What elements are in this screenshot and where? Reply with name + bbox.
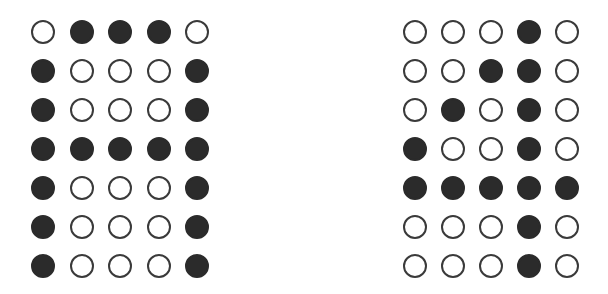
filled-dot — [70, 137, 94, 161]
empty-dot — [403, 59, 427, 83]
empty-dot — [403, 254, 427, 278]
empty-dot — [441, 254, 465, 278]
empty-dot — [403, 20, 427, 44]
filled-dot — [517, 176, 541, 200]
empty-dot — [441, 59, 465, 83]
filled-dot — [441, 176, 465, 200]
filled-dot — [517, 98, 541, 122]
filled-dot — [185, 98, 209, 122]
empty-dot — [108, 98, 132, 122]
empty-dot — [555, 98, 579, 122]
filled-dot — [108, 137, 132, 161]
empty-dot — [70, 215, 94, 239]
empty-dot — [479, 215, 503, 239]
filled-dot — [185, 215, 209, 239]
filled-dot — [31, 137, 55, 161]
filled-dot — [185, 59, 209, 83]
filled-dot — [31, 215, 55, 239]
empty-dot — [441, 215, 465, 239]
empty-dot — [441, 20, 465, 44]
filled-dot — [403, 176, 427, 200]
empty-dot — [555, 59, 579, 83]
empty-dot — [108, 254, 132, 278]
empty-dot — [108, 215, 132, 239]
empty-dot — [70, 254, 94, 278]
filled-dot — [479, 176, 503, 200]
filled-dot — [147, 137, 171, 161]
empty-dot — [479, 254, 503, 278]
empty-dot — [403, 215, 427, 239]
filled-dot — [441, 98, 465, 122]
empty-dot — [479, 137, 503, 161]
filled-dot — [185, 254, 209, 278]
empty-dot — [108, 176, 132, 200]
empty-dot — [147, 254, 171, 278]
empty-dot — [479, 20, 503, 44]
empty-dot — [147, 98, 171, 122]
empty-dot — [70, 176, 94, 200]
filled-dot — [517, 254, 541, 278]
empty-dot — [185, 20, 209, 44]
empty-dot — [31, 20, 55, 44]
empty-dot — [147, 215, 171, 239]
empty-dot — [479, 98, 503, 122]
filled-dot — [147, 20, 171, 44]
empty-dot — [555, 215, 579, 239]
filled-dot — [31, 59, 55, 83]
empty-dot — [108, 59, 132, 83]
filled-dot — [31, 176, 55, 200]
filled-dot — [31, 254, 55, 278]
empty-dot — [441, 137, 465, 161]
filled-dot — [31, 98, 55, 122]
filled-dot — [185, 137, 209, 161]
filled-dot — [517, 137, 541, 161]
empty-dot — [70, 98, 94, 122]
filled-dot — [403, 137, 427, 161]
filled-dot — [108, 20, 132, 44]
filled-dot — [185, 176, 209, 200]
empty-dot — [555, 137, 579, 161]
empty-dot — [147, 59, 171, 83]
filled-dot — [517, 20, 541, 44]
filled-dot — [517, 215, 541, 239]
empty-dot — [70, 59, 94, 83]
empty-dot — [403, 98, 427, 122]
empty-dot — [147, 176, 171, 200]
empty-dot — [555, 254, 579, 278]
filled-dot — [517, 59, 541, 83]
filled-dot — [555, 176, 579, 200]
filled-dot — [70, 20, 94, 44]
empty-dot — [555, 20, 579, 44]
filled-dot — [479, 59, 503, 83]
